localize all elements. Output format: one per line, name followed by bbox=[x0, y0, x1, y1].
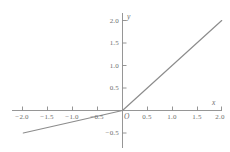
chart-canvas: −2.0 −1.5 −1.0 −0.5 0.5 1.0 1.5 2.0 2.0 … bbox=[0, 0, 230, 152]
y-tick-label-1.0: 1.0 bbox=[101, 62, 119, 70]
x-tick-label-1.0: 1.0 bbox=[167, 113, 176, 121]
x-tick-label-0.5: 0.5 bbox=[142, 113, 151, 121]
x-tick-label--1.0: −1.0 bbox=[65, 113, 79, 121]
origin-label: O bbox=[124, 112, 129, 121]
x-axis-label: x bbox=[212, 98, 215, 107]
y-tick-label-1.5: 1.5 bbox=[101, 39, 119, 47]
y-tick-label--0.5: −0.5 bbox=[97, 129, 119, 137]
y-axis-label: y bbox=[127, 12, 130, 21]
x-tick-label--0.5: −0.5 bbox=[90, 113, 104, 121]
x-axis-ticks bbox=[23, 107, 222, 111]
x-tick-label-2.0: 2.0 bbox=[215, 113, 224, 121]
y-tick-label-2.0: 2.0 bbox=[101, 17, 119, 25]
x-tick-label--2.0: −2.0 bbox=[15, 113, 29, 121]
y-tick-label-0.5: 0.5 bbox=[101, 84, 119, 92]
x-tick-label-1.5: 1.5 bbox=[192, 113, 201, 121]
x-tick-label--1.5: −1.5 bbox=[40, 113, 54, 121]
